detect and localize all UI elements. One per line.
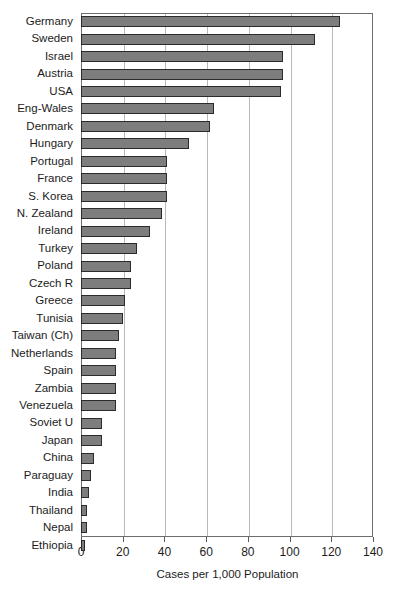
bar-row [81,13,373,30]
bar [81,173,167,184]
bar [81,313,123,324]
bar-row [81,502,373,519]
x-tick [290,537,291,542]
x-tick [123,537,124,542]
x-tick-label: 40 [158,545,171,559]
category-label: Czech R [0,275,77,292]
category-label: France [0,170,77,187]
bar [81,365,116,376]
bar-row [81,100,373,117]
category-label: Ireland [0,222,77,239]
bar [81,226,150,237]
bar-row [81,240,373,257]
category-label: India [0,484,77,501]
category-label: Poland [0,257,77,274]
bar [81,540,85,551]
category-label: Venezuela [0,397,77,414]
bar [81,121,210,132]
bar-row [81,275,373,292]
bar [81,86,281,97]
bar-row [81,292,373,309]
bar [81,261,131,272]
category-label: Greece [0,292,77,309]
x-axis-tick-labels: 020406080100120140 [0,545,401,561]
x-tick-label: 80 [241,545,254,559]
category-label: Japan [0,432,77,449]
bar [81,383,116,394]
category-label: Hungary [0,135,77,152]
category-label: Soviet U [0,414,77,431]
bar-row [81,484,373,501]
category-label: S. Korea [0,188,77,205]
category-label: Tunisia [0,310,77,327]
bar-row [81,118,373,135]
category-axis-labels: GermanySwedenIsraelAustriaUSAEng-WalesDe… [0,13,77,537]
bar [81,487,89,498]
category-label: Portugal [0,153,77,170]
x-tick [373,537,374,542]
bar-chart: GermanySwedenIsraelAustriaUSAEng-WalesDe… [0,0,401,607]
category-label: Germany [0,13,77,30]
bar [81,16,340,27]
category-label: Zambia [0,380,77,397]
x-tick [164,537,165,542]
x-tick [248,537,249,542]
bar-row [81,257,373,274]
bar-row [81,362,373,379]
bar-row [81,170,373,187]
bar [81,69,283,80]
bar-row [81,310,373,327]
category-label: Spain [0,362,77,379]
bar-row [81,222,373,239]
x-tick-label: 60 [199,545,212,559]
bar [81,453,94,464]
bar [81,138,189,149]
bar-row [81,153,373,170]
bar-row [81,414,373,431]
category-label: Paraguay [0,467,77,484]
category-label: Eng-Wales [0,100,77,117]
category-label: Austria [0,65,77,82]
bar-row [81,519,373,536]
bar-row [81,467,373,484]
category-label: Turkey [0,240,77,257]
bar [81,191,167,202]
category-label: Taiwan (Ch) [0,327,77,344]
bar [81,51,283,62]
bar [81,208,162,219]
bar-row [81,327,373,344]
bar-row [81,449,373,466]
bar [81,400,116,411]
x-axis-ticks [81,537,373,542]
x-tick-label: 20 [116,545,129,559]
bar [81,103,214,114]
x-axis-title: Cases per 1,000 Population [0,568,401,580]
x-tick-label: 120 [321,545,341,559]
x-tick-label: 100 [280,545,300,559]
bar [81,295,125,306]
bar-row [81,48,373,65]
bar-row [81,397,373,414]
category-label: N. Zealand [0,205,77,222]
category-label: Nepal [0,519,77,536]
bar [81,243,137,254]
bar-row [81,135,373,152]
bar [81,348,116,359]
bar-row [81,188,373,205]
bar [81,418,102,429]
x-tick-label: 140 [363,545,383,559]
category-label: Denmark [0,118,77,135]
category-label: Netherlands [0,345,77,362]
bar-series [81,13,373,537]
bar-row [81,65,373,82]
bar [81,330,119,341]
bar-row [81,30,373,47]
category-label: USA [0,83,77,100]
x-axis-title-text: Cases per 1,000 Population [157,568,299,580]
category-label: Israel [0,48,77,65]
bar-row [81,205,373,222]
category-label: Thailand [0,502,77,519]
bar [81,505,87,516]
bar-row [81,380,373,397]
bar [81,470,91,481]
